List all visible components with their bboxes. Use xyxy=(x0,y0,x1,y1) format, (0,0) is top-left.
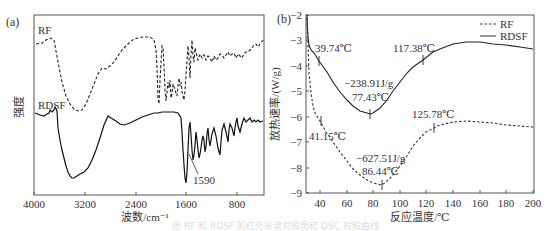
plot-b-xtick-label: 160 xyxy=(472,197,489,209)
ann-rf-onset: 41.15℃ xyxy=(309,130,346,142)
plot-b-ytick-label: −5 xyxy=(290,85,302,97)
legend-rf-label: RF xyxy=(500,18,513,30)
plot-b-xtick-label: 40 xyxy=(315,197,327,209)
figure-caption: 图 RF 和 RDSF 的红外光谱对照图和 DSC 对照曲线 xyxy=(0,219,551,231)
plot-b-legend: RF RDSF xyxy=(480,18,528,42)
plot-a-xtick-label: 3200 xyxy=(74,198,97,210)
series-rdsf-ir xyxy=(35,107,263,183)
plot-a-xtick-label: 1600 xyxy=(175,198,198,210)
plot-b-xtick-label: 140 xyxy=(445,197,462,209)
plot-b-ytick-label: −8 xyxy=(290,162,302,174)
plot-b-xtick-label: 180 xyxy=(498,197,515,209)
plot-b-xtick-label: 60 xyxy=(342,197,354,209)
plot-b-ytick-label: −9 xyxy=(290,187,302,199)
plot-b-ytick-label: −7 xyxy=(290,136,302,148)
plot-b-xtick-label: 120 xyxy=(418,197,435,209)
plot-b-xtick-label: 80 xyxy=(368,197,380,209)
plot-b-ylabel: 放热速率/(W/g) xyxy=(268,67,282,141)
panel-b-label: (b) xyxy=(277,12,291,26)
plot-b-ytick-label: −3 xyxy=(290,34,302,46)
ann-rf-end: 125.78℃ xyxy=(412,108,455,120)
figure-canvas: (a) 强度 4000 3200 2400 1600 800 波数/cm⁻¹ R… xyxy=(0,0,551,231)
plot-a-xtick-label: 4000 xyxy=(23,198,46,210)
ann-rdsf-peak: 77.43℃ xyxy=(352,91,389,103)
ann-rf-peak: 86.44℃ xyxy=(362,165,399,177)
plot-b-ytick-label: −4 xyxy=(290,60,302,72)
plot-b-ytick-label: −2 xyxy=(290,9,302,21)
panel-b: (b) −2 −3 −4 −5 −6 −7 −8 −9 放热速率/(W/g) xyxy=(268,9,542,223)
series-rf-ir xyxy=(36,37,263,111)
plot-a-xtick-label: 2400 xyxy=(125,198,148,210)
plot-b-ytick-label: −6 xyxy=(290,111,302,123)
plot-a-frame xyxy=(34,15,264,195)
plot-a-xtick-label: 800 xyxy=(229,198,246,210)
peak-1590-label: 1590 xyxy=(193,174,216,186)
series-rf-label: RF xyxy=(38,24,51,36)
panel-a-label: (a) xyxy=(6,15,19,29)
ann-rdsf-heat: −238.91J/g xyxy=(344,77,394,89)
ann-rdsf-onset: 39.74℃ xyxy=(315,42,352,54)
plot-b-xtick-label: 200 xyxy=(525,197,542,209)
plot-b-xtick-label: 100 xyxy=(392,197,409,209)
plot-a-ylabel: 强度 xyxy=(12,96,25,118)
legend-rdsf-label: RDSF xyxy=(500,30,528,42)
ann-rf-heat: −627.51J/g xyxy=(356,152,406,164)
ann-rdsf-end: 117.38℃ xyxy=(393,42,435,54)
series-rdsf-label: RDSF xyxy=(38,99,66,111)
panel-a: (a) 强度 4000 3200 2400 1600 800 波数/cm⁻¹ R… xyxy=(6,15,264,223)
